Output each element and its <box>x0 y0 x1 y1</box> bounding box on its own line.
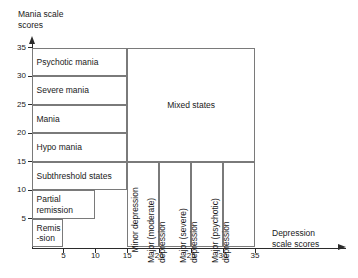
x-axis-arrow-icon <box>338 244 346 250</box>
region-label-major-severe-depression: Major (severe) depression <box>178 208 199 263</box>
x-tick-label-5: 5 <box>51 251 75 260</box>
region-label-major-psychotic-depression: Major (psychotic) depression <box>210 198 231 263</box>
region-label-mixed-states: Mixed states <box>127 100 255 111</box>
region-label-psychotic-mania: Psychotic mania <box>37 57 99 68</box>
y-tick-label-5: 5 <box>6 214 26 223</box>
y-axis-arrow-icon <box>29 36 35 44</box>
region-label-partial-remission: Partial remission <box>37 194 73 215</box>
region-label-major-moderate-depression: Major (moderate) depression <box>146 197 167 262</box>
y-tick-label-15: 15 <box>6 157 26 166</box>
y-tick-label-30: 30 <box>6 71 26 80</box>
region-label-minor-depression: Minor depression <box>130 187 141 252</box>
y-tick-label-25: 25 <box>6 100 26 109</box>
region-label-severe-mania: Severe mania <box>37 85 89 96</box>
x-axis-title: Depression scale scores <box>272 228 319 249</box>
y-tick-label-10: 10 <box>6 185 26 194</box>
region-label-remis-sion: Remis -sion <box>37 223 61 244</box>
x-tick-label-35: 35 <box>243 251 267 260</box>
y-axis-title: Mania scale scores <box>18 9 63 30</box>
region-label-subthreshold-states: Subthreshold states <box>37 171 112 182</box>
y-tick-label-35: 35 <box>6 43 26 52</box>
bipolar-severity-grid-figure: Mania scale scores Depression scale scor… <box>0 0 358 278</box>
region-label-mania: Mania <box>37 114 60 125</box>
y-tick-label-20: 20 <box>6 128 26 137</box>
x-tick-label-10: 10 <box>83 251 107 260</box>
region-label-hypo-mania: Hypo mania <box>37 142 82 153</box>
